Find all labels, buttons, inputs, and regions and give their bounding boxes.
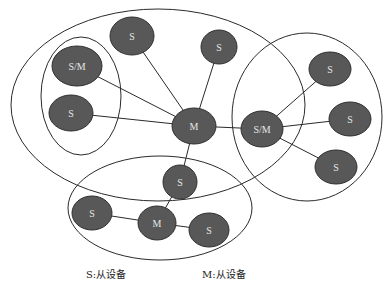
legend-slave: S:从设备 xyxy=(86,266,126,281)
node-label: S xyxy=(327,64,333,75)
node-label: S xyxy=(216,42,222,53)
legend-master: M:从设备 xyxy=(202,266,246,281)
node-master: M xyxy=(138,206,176,240)
node-slave: S xyxy=(163,165,197,199)
node-label: S xyxy=(347,114,353,125)
device-nodes: SSS/MSMS/MSSSSSMS xyxy=(49,17,371,247)
node-slave-master: S/M xyxy=(241,111,283,147)
node-slave: S xyxy=(309,52,351,86)
node-slave-master: S/M xyxy=(52,46,102,86)
node-label: S xyxy=(333,162,339,173)
node-label: S xyxy=(177,177,183,188)
node-slave: S xyxy=(49,95,93,131)
node-slave: S xyxy=(315,150,357,184)
scatternet-diagram: SSS/MSMS/MSSSSSMS xyxy=(0,0,388,286)
node-slave: S xyxy=(329,102,371,136)
node-label: M xyxy=(153,218,162,229)
node-label: S xyxy=(68,108,74,119)
node-label: S/M xyxy=(68,61,85,72)
node-label: S xyxy=(206,225,212,236)
node-slave: S xyxy=(72,196,112,230)
node-label: S/M xyxy=(253,124,270,135)
node-slave: S xyxy=(201,30,237,64)
node-label: M xyxy=(190,121,199,132)
node-label: S xyxy=(89,208,95,219)
node-master: M xyxy=(172,108,216,144)
node-slave: S xyxy=(110,17,154,55)
node-label: S xyxy=(129,31,135,42)
node-slave: S xyxy=(189,213,229,247)
